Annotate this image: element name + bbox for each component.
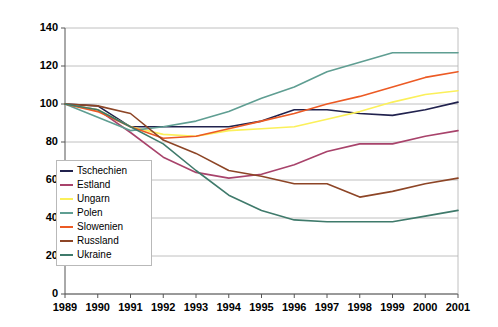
legend-swatch-icon: [60, 240, 73, 242]
y-tick-0: 0: [18, 288, 58, 299]
y-tick-60: 60: [18, 174, 58, 185]
y-tick-40: 40: [18, 212, 58, 223]
y-tick-120: 120: [18, 60, 58, 71]
y-tick-20: 20: [18, 250, 58, 261]
legend-swatch-icon: [60, 170, 73, 172]
y-tick-140: 140: [18, 22, 58, 33]
legend-item-tschechien: Tschechien: [60, 164, 147, 178]
line-chart: 020406080100120140 198919901991199219931…: [0, 0, 498, 327]
legend-label: Tschechien: [77, 166, 127, 176]
legend-item-estland: Estland: [60, 178, 147, 192]
legend-swatch-icon: [60, 226, 73, 228]
legend-swatch-icon: [60, 198, 73, 200]
legend-swatch-icon: [60, 254, 73, 256]
legend-label: Polen: [77, 208, 103, 218]
legend-item-ungarn: Ungarn: [60, 192, 147, 206]
series-line-polen: [65, 53, 458, 131]
legend-item-polen: Polen: [60, 206, 147, 220]
legend-item-russland: Russland: [60, 234, 147, 248]
legend-label: Slowenien: [77, 222, 123, 232]
legend-item-ukraine: Ukraine: [60, 248, 147, 262]
x-tick-2001: 2001: [438, 302, 478, 313]
legend-swatch-icon: [60, 212, 73, 214]
legend-item-slowenien: Slowenien: [60, 220, 147, 234]
legend-label: Russland: [77, 236, 119, 246]
y-tick-100: 100: [18, 98, 58, 109]
legend-label: Ungarn: [77, 194, 110, 204]
legend-swatch-icon: [60, 184, 73, 186]
legend-label: Ukraine: [77, 250, 111, 260]
chart-legend: TschechienEstlandUngarnPolenSlowenienRus…: [56, 160, 152, 266]
legend-label: Estland: [77, 180, 110, 190]
y-tick-80: 80: [18, 136, 58, 147]
